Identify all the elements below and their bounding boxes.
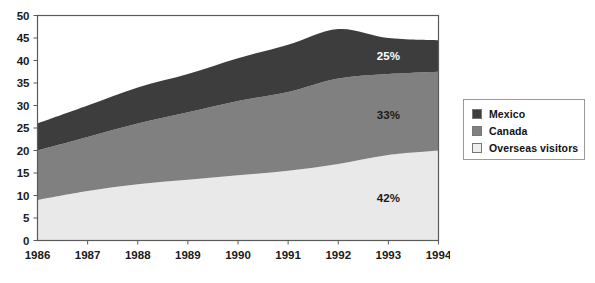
- y-axis-tick-label: 0: [23, 235, 29, 247]
- chart-svg: 05101520253035404550 1986198719881989199…: [0, 0, 450, 260]
- annotation-canada-percent: 33%: [377, 109, 400, 121]
- x-axis-tick-label: 1992: [325, 249, 351, 261]
- chart-legend: Mexico Canada Overseas visitors: [463, 99, 585, 160]
- legend-label-overseas-visitors: Overseas visitors: [489, 142, 578, 154]
- legend-item-canada: Canada: [472, 122, 578, 139]
- y-axis-tick-label: 45: [17, 32, 30, 44]
- legend-item-overseas-visitors: Overseas visitors: [472, 139, 578, 156]
- legend-swatch-mexico: [472, 109, 482, 119]
- y-axis-tick-label: 5: [23, 212, 30, 224]
- y-axis-tick-label: 20: [17, 145, 30, 157]
- y-axis-tick-label: 15: [17, 167, 30, 179]
- y-axis-tick-labels: 05101520253035404550: [17, 10, 30, 247]
- legend-label-mexico: Mexico: [489, 108, 525, 120]
- x-axis-tick-labels: 198619871988198919901991199219931994: [25, 249, 450, 261]
- legend-swatch-overseas-visitors: [472, 143, 482, 153]
- y-axis-tick-label: 50: [17, 10, 30, 22]
- annotation-overseas-percent: 42%: [377, 192, 400, 204]
- y-axis-tick-label: 40: [17, 55, 30, 67]
- y-axis-tick-label: 30: [17, 100, 30, 112]
- x-axis-ticks: [88, 241, 439, 245]
- y-axis-tick-label: 35: [17, 77, 30, 89]
- legend-label-canada: Canada: [489, 125, 528, 137]
- x-axis-tick-label: 1989: [175, 249, 201, 261]
- x-axis-tick-label: 1988: [125, 249, 151, 261]
- x-axis-tick-label: 1993: [376, 249, 402, 261]
- x-axis-tick-label: 1994: [426, 249, 450, 261]
- x-axis-tick-label: 1990: [225, 249, 251, 261]
- chart-plot-container: 05101520253035404550 1986198719881989199…: [0, 0, 450, 260]
- x-axis-tick-label: 1991: [275, 249, 301, 261]
- annotation-mexico-percent: 25%: [377, 50, 400, 62]
- x-axis-tick-label: 1986: [25, 249, 51, 261]
- legend-swatch-canada: [472, 126, 482, 136]
- x-axis-tick-label: 1987: [75, 249, 101, 261]
- legend-item-mexico: Mexico: [472, 105, 578, 122]
- stacked-area-chart-figure: 05101520253035404550 1986198719881989199…: [0, 0, 595, 283]
- y-axis-tick-label: 10: [17, 190, 30, 202]
- y-axis-tick-label: 25: [17, 122, 30, 134]
